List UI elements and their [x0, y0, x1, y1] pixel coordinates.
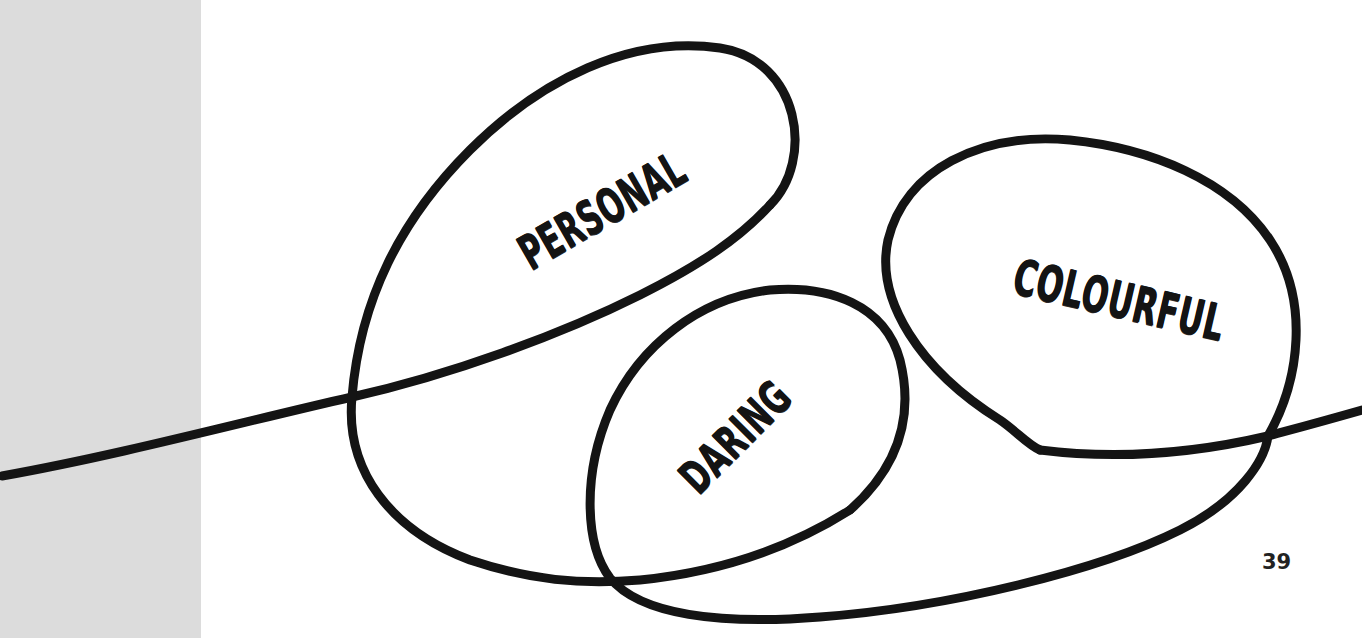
page-number: 39 — [1262, 550, 1291, 574]
flowing-line-right — [1040, 410, 1362, 454]
